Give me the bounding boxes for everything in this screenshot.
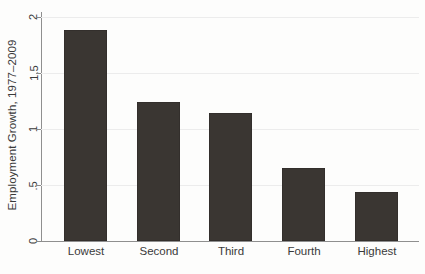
y-tick-label: .5 [26, 180, 40, 192]
x-tick-label-fourth: Fourth [262, 245, 346, 257]
y-axis-tick-labels: 2 1.5 1 .5 0 [22, 0, 40, 274]
bar-third[interactable] [209, 113, 252, 241]
bar-second[interactable] [137, 102, 180, 241]
tickmark-1-5 [36, 73, 41, 74]
x-tick-label-lowest: Lowest [44, 245, 128, 257]
tickmark-2 [36, 17, 41, 18]
plot-area [41, 8, 419, 241]
tickmark-0 [36, 241, 41, 242]
y-axis-title: Employment Growth, 1977–2009 [0, 0, 24, 250]
tickmark-1 [36, 129, 41, 130]
gridline-2 [41, 17, 419, 18]
caption-strip [0, 262, 425, 274]
x-tick-label-third: Third [189, 245, 273, 257]
bar-fourth[interactable] [282, 168, 325, 241]
bar-chart-figure: Employment Growth, 1977–2009 2 1.5 1 .5 … [0, 0, 425, 274]
bar-highest[interactable] [355, 192, 398, 241]
bar-lowest[interactable] [64, 30, 107, 241]
y-axis-title-text: Employment Growth, 1977–2009 [6, 40, 18, 211]
x-axis-line [36, 241, 419, 242]
x-tick-label-highest: Highest [335, 245, 419, 257]
tickmark-0-5 [36, 185, 41, 186]
